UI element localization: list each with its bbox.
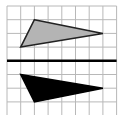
reflection-diagram: [0, 0, 119, 115]
